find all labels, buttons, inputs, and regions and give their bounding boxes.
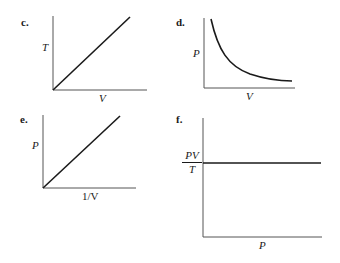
panel-e-ylabel: P (32, 140, 39, 151)
panel-c-ylabel: T (42, 42, 48, 53)
panel-d-curve (211, 19, 292, 81)
panel-d-graph (204, 18, 295, 88)
panel-d-letter: d. (176, 17, 185, 28)
panel-f-ylabel-denominator: T (189, 163, 195, 175)
panel-f-ylabel: PV T (182, 150, 202, 175)
panel-c-xlabel: V (99, 93, 106, 104)
panel-c-letter: c. (21, 17, 29, 28)
panel-c-curve (53, 17, 130, 90)
panel-d-xlabel: V (246, 91, 253, 102)
panel-e-graph (43, 115, 136, 188)
graphs-canvas (0, 0, 340, 263)
panel-f-xlabel: P (259, 240, 266, 251)
panel-d-ylabel: P (193, 48, 200, 59)
panel-f-letter: f. (176, 114, 182, 125)
panel-e-xlabel: 1/V (82, 191, 99, 202)
panel-e-curve (43, 116, 120, 188)
panel-f-graph (203, 118, 322, 237)
panel-c-graph (53, 16, 147, 90)
panel-f-ylabel-numerator: PV (185, 149, 198, 161)
panel-e-letter: e. (20, 114, 28, 125)
